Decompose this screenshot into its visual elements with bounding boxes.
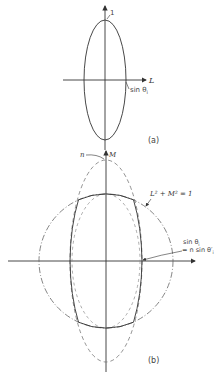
- panel-b-circle-pointer: [146, 199, 151, 206]
- panel-b-intercept-label-2: = n sin θ′i: [182, 246, 214, 255]
- panel-a: 1 L sin θi (a): [63, 6, 159, 150]
- panel-a-caption: (a): [148, 136, 159, 145]
- panel-a-intercept-label: sin θi: [130, 86, 148, 95]
- panel-a-intercept-pointer: [126, 82, 129, 89]
- panel-b-circle-label: L² + M² = 1: [149, 190, 193, 198]
- panel-a-tick-label: 1: [110, 9, 114, 17]
- panel-b: n M L² + M² = 1 sin θi = n sin θ′i (b): [8, 151, 214, 372]
- panel-b-intercept-pointer: [143, 251, 182, 260]
- panel-b-n-label: n: [80, 151, 85, 159]
- panel-b-n-pointer: [86, 155, 104, 159]
- panel-b-caption: (b): [148, 356, 159, 365]
- panel-b-axis-label-m: M: [108, 151, 117, 159]
- diagram-canvas: 1 L sin θi (a) n M L² + M² = 1 sin θi =: [0, 0, 221, 378]
- panel-a-axis-label-l: L: [148, 76, 154, 85]
